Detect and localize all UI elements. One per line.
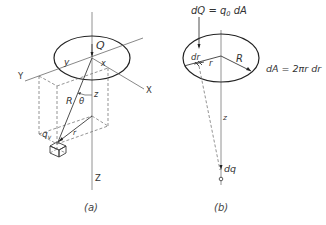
label-z-b: z — [222, 113, 228, 122]
figure-b: dQ = q0 dA dr r R dA = 2πr dr z dq (b) — [183, 5, 322, 213]
label-R: R — [66, 95, 73, 106]
y-axis-line — [25, 38, 143, 81]
figure-diagram: Q y x Y X R θ z r qv Z (a) — [0, 0, 326, 225]
label-R-b: R — [236, 53, 243, 64]
label-r: r — [73, 128, 77, 137]
caption-b: (b) — [214, 202, 228, 213]
label-r-b: r — [209, 58, 213, 68]
label-y: y — [63, 57, 70, 67]
label-Z-axis: Z — [95, 173, 101, 183]
label-Y-axis: Y — [17, 71, 24, 81]
dashed-top-left — [39, 76, 57, 86]
label-z: z — [93, 90, 99, 99]
label-qv: qv — [42, 129, 52, 140]
dq-point-icon — [219, 177, 223, 181]
label-dQ-equation: dQ = q0 dA — [191, 5, 247, 18]
label-dq: dq — [224, 163, 236, 174]
volume-element-cube — [50, 142, 66, 157]
dashed-bottom-right — [92, 116, 108, 126]
label-X-axis: X — [146, 85, 152, 95]
label-x: x — [100, 59, 106, 68]
dashed-bottom-front — [57, 126, 108, 144]
label-dr: dr — [191, 52, 200, 62]
label-dA-equation: dA = 2πr dr — [266, 63, 322, 74]
radius-r-line — [184, 56, 221, 66]
x-axis-line — [92, 58, 144, 89]
radius-R-arrow — [246, 67, 251, 71]
figure-a: Q y x Y X R θ z r qv Z (a) — [17, 12, 152, 213]
dQ-arrow-head — [198, 44, 201, 49]
caption-a: (a) — [84, 202, 98, 213]
label-theta: θ — [79, 96, 85, 106]
label-Q: Q — [96, 39, 105, 52]
dashed-top-front — [57, 68, 108, 86]
